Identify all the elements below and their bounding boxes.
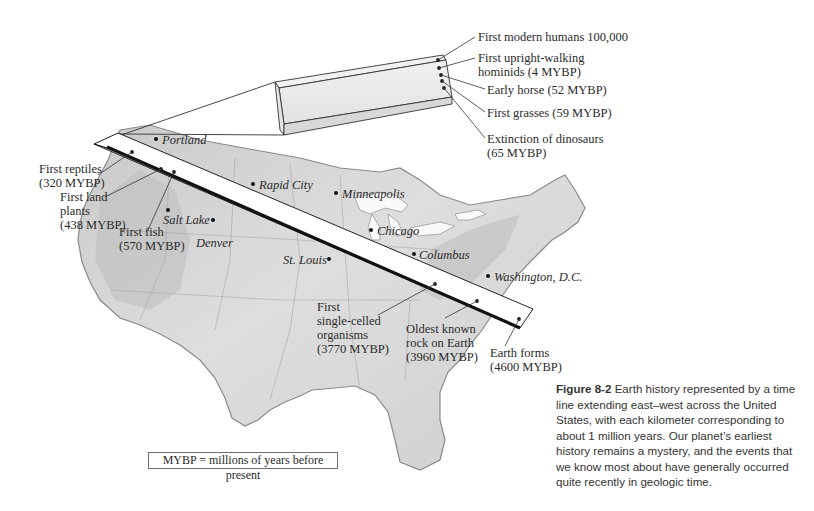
event-label-line: Oldest known	[406, 322, 478, 336]
event-label-line: First	[317, 300, 389, 314]
figure-canvas: Portland Rapid City Minneapolis Salt Lak…	[0, 0, 814, 511]
event-label-line: (4600 MYBP)	[490, 360, 562, 374]
event-label-line: (3960 MYBP)	[406, 350, 478, 364]
mybp-legend: MYBP = millions of years before present	[148, 452, 338, 469]
event-label-line: (570 MYBP)	[119, 239, 185, 253]
event-label-line: First upright-walking	[478, 51, 585, 65]
event-label-line: plants	[60, 204, 126, 218]
event-label-line: First reptiles	[39, 162, 105, 176]
city-label-chicago: Chicago	[377, 224, 419, 238]
city-label-columbus: Columbus	[419, 248, 470, 262]
event-label-line: single-celled	[317, 314, 389, 328]
city-label-portland: Portland	[162, 133, 206, 147]
figure-caption: Figure 8-2 Earth history represented by …	[556, 381, 806, 490]
city-label-st-louis: St. Louis	[283, 253, 327, 267]
event-label-line: (3770 MYBP)	[317, 342, 389, 356]
event-label-first-modern-humans: First modern humans 100,000	[478, 30, 628, 44]
event-label-line: hominids (4 MYBP)	[478, 65, 585, 79]
city-label-rapid-city: Rapid City	[259, 178, 313, 192]
event-label-line: First modern humans 100,000	[478, 30, 628, 44]
event-label-first-grasses: First grasses (59 MYBP)	[487, 106, 612, 120]
event-label-line: (65 MYBP)	[487, 146, 604, 160]
city-label-washington-dc: Washington, D.C.	[494, 270, 582, 284]
city-label-minneapolis: Minneapolis	[342, 187, 405, 201]
event-label-first-single-celled: First single-celled organisms (3770 MYBP…	[317, 300, 389, 356]
event-label-first-reptiles: First reptiles (320 MYBP)	[39, 162, 105, 190]
event-label-early-horse: Early horse (52 MYBP)	[487, 83, 607, 97]
event-label-earth-forms: Earth forms (4600 MYBP)	[490, 346, 562, 374]
event-label-line: First land	[60, 190, 126, 204]
event-label-line: rock on Earth	[406, 336, 478, 350]
event-label-line: First fish	[119, 225, 185, 239]
inset-timeline-block	[275, 37, 485, 138]
event-label-line: Earth forms	[490, 346, 562, 360]
event-label-line: Early horse (52 MYBP)	[487, 83, 607, 97]
event-label-extinction-dinosaurs: Extinction of dinosaurs (65 MYBP)	[487, 132, 604, 160]
city-label-denver: Denver	[196, 236, 233, 250]
figure-caption-text: Earth history represented by a time line…	[556, 382, 795, 488]
event-label-line: Extinction of dinosaurs	[487, 132, 604, 146]
figure-number: Figure 8-2	[556, 382, 611, 395]
event-label-line: First grasses (59 MYBP)	[487, 106, 612, 120]
event-label-first-hominids: First upright-walking hominids (4 MYBP)	[478, 51, 585, 79]
event-label-first-fish: First fish (570 MYBP)	[119, 225, 185, 253]
event-label-line: (438 MYBP)	[60, 218, 126, 232]
event-label-first-land-plants: First land plants (438 MYBP)	[60, 190, 126, 232]
us-map-landmass	[78, 125, 585, 470]
event-label-oldest-rock: Oldest known rock on Earth (3960 MYBP)	[406, 322, 478, 364]
event-label-line: (320 MYBP)	[39, 176, 105, 190]
event-label-line: organisms	[317, 328, 389, 342]
